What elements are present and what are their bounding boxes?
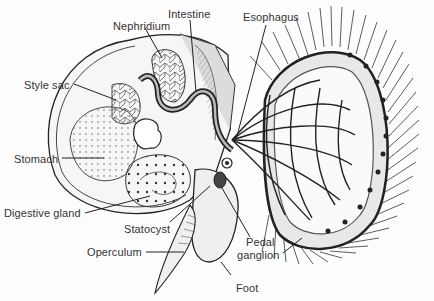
label-nephridium: Nephridium bbox=[113, 20, 170, 32]
pedal-ganglion-organ bbox=[214, 172, 226, 188]
label-operculum: Operculum bbox=[87, 246, 142, 258]
label-esophagus: Esophagus bbox=[243, 11, 299, 23]
label-foot: Foot bbox=[236, 282, 258, 294]
veliger-illustration bbox=[0, 0, 434, 301]
diagram-canvas: Nephridium Intestine Esophagus Style sac… bbox=[0, 0, 434, 301]
lobed-mass bbox=[134, 119, 162, 149]
label-stomach: Stomach bbox=[14, 153, 58, 165]
operculum-organ bbox=[155, 205, 195, 293]
label-statocyst: Statocyst bbox=[124, 223, 170, 235]
label-style-sac: Style sac bbox=[24, 79, 70, 91]
label-intestine: Intestine bbox=[168, 8, 210, 20]
label-ganglion: ganglion bbox=[237, 249, 279, 261]
label-pedal: Pedal bbox=[246, 236, 275, 248]
velum bbox=[232, 6, 419, 264]
label-digestive-gland: Digestive gland bbox=[4, 207, 81, 219]
